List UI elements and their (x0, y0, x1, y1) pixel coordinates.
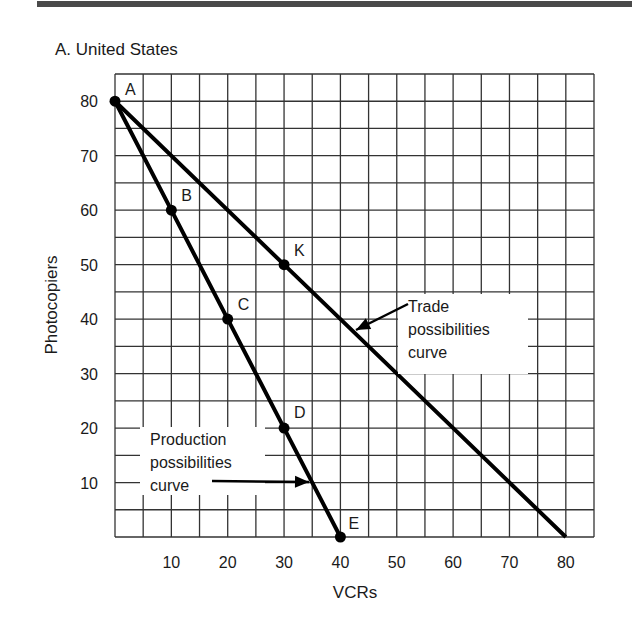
point-label: A (125, 81, 136, 98)
chart-plot: TradepossibilitiescurveProductionpossibi… (0, 0, 632, 641)
x-axis-title: VCRs (333, 583, 377, 602)
x-tick-label: 30 (275, 554, 293, 571)
point-d (279, 423, 290, 434)
annotation-text: curve (150, 477, 189, 494)
point-k (279, 259, 290, 270)
y-tick-label: 50 (80, 257, 98, 274)
y-tick-label: 60 (80, 202, 98, 219)
annotation-text: Production (150, 431, 227, 448)
point-label: D (294, 404, 306, 421)
point-b (166, 205, 177, 216)
point-e (335, 532, 346, 543)
y-tick-label: 10 (80, 475, 98, 492)
y-tick-label: 30 (80, 366, 98, 383)
annotation-text: Trade (408, 298, 449, 315)
annotation-text: curve (408, 344, 447, 361)
x-tick-label: 70 (501, 554, 519, 571)
point-label: C (238, 296, 250, 313)
x-tick-label: 80 (557, 554, 575, 571)
x-tick-label: 60 (444, 554, 462, 571)
x-tick-label: 20 (219, 554, 237, 571)
arrow-icon (212, 481, 309, 482)
point-label: E (348, 515, 359, 532)
annotation-text: possibilities (408, 321, 490, 338)
chart-annotations: TradepossibilitiescurveProductionpossibi… (140, 294, 528, 495)
x-tick-label: 10 (162, 554, 180, 571)
arrowhead-icon (295, 476, 309, 488)
point-c (222, 314, 233, 325)
point-label: B (181, 187, 192, 204)
x-tick-label: 50 (388, 554, 406, 571)
y-tick-label: 20 (80, 420, 98, 437)
y-tick-label: 40 (80, 311, 98, 328)
point-label: K (294, 242, 305, 259)
annotation-text: possibilities (150, 454, 232, 471)
point-a (110, 96, 121, 107)
x-tick-label: 40 (332, 554, 350, 571)
y-tick-label: 80 (80, 93, 98, 110)
y-axis-title: Photocopiers (42, 255, 61, 354)
y-tick-label: 70 (80, 148, 98, 165)
